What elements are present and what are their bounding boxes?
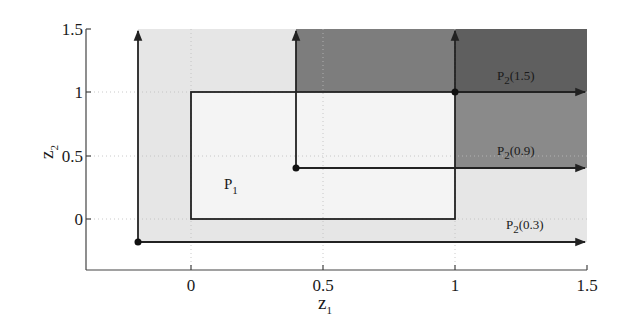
x-tick-1.5: 1.5 bbox=[576, 276, 597, 295]
y-tick-0.5: 0.5 bbox=[62, 147, 83, 166]
y-tick-0: 0 bbox=[75, 210, 84, 229]
y-axis-label: z2 bbox=[36, 145, 60, 159]
p2-1.5-corner-point bbox=[452, 89, 459, 96]
region-p1 bbox=[191, 92, 455, 219]
p2-0.3-corner-point bbox=[135, 239, 142, 246]
x-tick-1: 1 bbox=[451, 276, 460, 295]
y-tick-1.5: 1.5 bbox=[62, 20, 83, 39]
y-tick-1: 1 bbox=[75, 83, 84, 102]
x-axis-label: z1 bbox=[318, 292, 332, 316]
region-diagram: 1.5 1 0.5 0 0 0.5 1 1.5 z1 z2 P1 P2(1.5)… bbox=[0, 0, 629, 335]
x-tick-0: 0 bbox=[187, 276, 196, 295]
region-p2-0.9-above-p1 bbox=[296, 29, 455, 92]
p2-0.9-corner-point bbox=[293, 165, 300, 172]
